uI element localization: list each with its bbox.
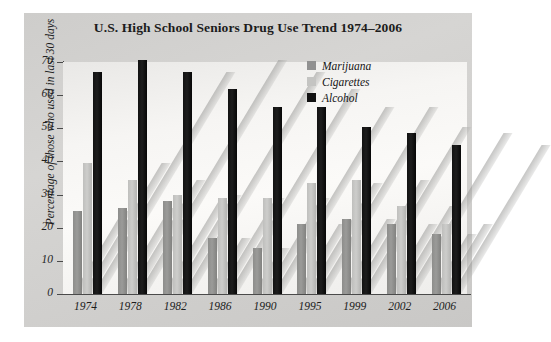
- bar-alcohol-1974: [93, 72, 102, 294]
- x-axis-tick-label: 1978: [105, 300, 155, 312]
- legend-item-alcohol: Alcohol: [307, 90, 371, 105]
- y-axis-tick-label: 0: [9, 286, 53, 298]
- legend-label: Cigarettes: [322, 76, 370, 88]
- bar-group: [73, 62, 102, 294]
- bar-cigarettes-1986: [218, 198, 227, 294]
- bar-alcohol-1986: [228, 89, 237, 294]
- bar-cigarettes-1995: [307, 183, 316, 294]
- plot-area: [63, 62, 467, 294]
- bar-marijuana-2006: [432, 234, 441, 294]
- y-axis-tick: [57, 95, 63, 96]
- x-axis-tick-label: 1995: [285, 300, 335, 312]
- bar-marijuana-1982: [163, 201, 172, 294]
- y-axis-tick-label: 20: [9, 220, 53, 232]
- y-axis-tick-label: 70: [9, 54, 53, 66]
- y-axis-tick: [57, 128, 63, 129]
- bar-alcohol-2002: [407, 133, 416, 294]
- x-axis-tick-label: 1990: [240, 300, 290, 312]
- bar-group: [208, 62, 237, 294]
- x-axis-tick-label: 1982: [150, 300, 200, 312]
- y-axis-tick: [57, 294, 63, 295]
- y-axis-tick-label: 60: [9, 87, 53, 99]
- bar-alcohol-1990: [273, 107, 282, 294]
- bar-marijuana-1978: [118, 208, 127, 294]
- legend-label: Alcohol: [322, 92, 358, 104]
- y-axis-tick-label: 50: [9, 120, 53, 132]
- bar-cigarettes-2006: [442, 224, 451, 294]
- bar-marijuana-1990: [253, 248, 262, 294]
- bar-cigarettes-1999: [352, 180, 361, 294]
- bar-alcohol-1982: [183, 72, 192, 294]
- bar-group: [163, 62, 192, 294]
- y-axis-tick-labels: 010203040506070: [0, 0, 53, 342]
- y-axis-tick: [57, 161, 63, 162]
- bar-group: [387, 62, 416, 294]
- bar-marijuana-1974: [73, 211, 82, 294]
- legend-swatch-icon: [307, 61, 316, 70]
- chart-legend: MarijuanaCigarettesAlcohol: [307, 58, 371, 106]
- bar-cigarettes-2002: [397, 206, 406, 294]
- x-axis-tick-label: 1974: [60, 300, 110, 312]
- bar-alcohol-2006: [452, 145, 461, 294]
- legend-swatch-icon: [307, 93, 316, 102]
- y-axis-tick-label: 30: [9, 187, 53, 199]
- bar-cigarettes-1978: [128, 180, 137, 294]
- legend-item-cigarettes: Cigarettes: [307, 74, 371, 89]
- legend-item-marijuana: Marijuana: [307, 58, 371, 73]
- legend-swatch-icon: [307, 77, 316, 86]
- bar-cigarettes-1974: [83, 163, 92, 294]
- legend-label: Marijuana: [322, 60, 371, 72]
- y-axis-tick-label: 40: [9, 153, 53, 165]
- bar-alcohol-1978: [138, 60, 147, 294]
- x-axis-tick-label: 1986: [195, 300, 245, 312]
- bar-alcohol-1995: [317, 107, 326, 294]
- y-axis-tick: [57, 261, 63, 262]
- bar-marijuana-2002: [387, 224, 396, 294]
- x-axis-tick-label: 2006: [420, 300, 470, 312]
- x-axis-tick-label: 2002: [375, 300, 425, 312]
- y-axis-tick-label: 10: [9, 253, 53, 265]
- bar-group: [253, 62, 282, 294]
- bar-marijuana-1999: [342, 219, 351, 294]
- x-axis-tick-label: 1999: [330, 300, 380, 312]
- bar-cigarettes-1982: [173, 195, 182, 294]
- bar-marijuana-1986: [208, 238, 217, 294]
- bar-marijuana-1995: [297, 224, 306, 294]
- y-axis-tick: [57, 195, 63, 196]
- bar-cigarettes-1990: [263, 198, 272, 294]
- bar-group: [432, 62, 461, 294]
- chart-title: U.S. High School Seniors Drug Use Trend …: [24, 20, 472, 36]
- bar-alcohol-1999: [362, 127, 371, 294]
- y-axis-tick: [57, 228, 63, 229]
- y-axis-tick: [57, 62, 63, 63]
- bar-group: [118, 62, 147, 294]
